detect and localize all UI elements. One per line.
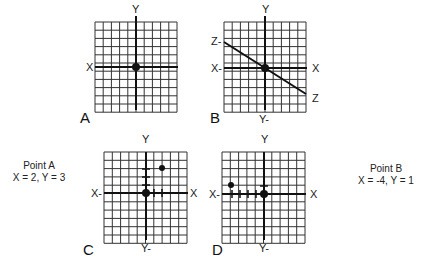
point-b-title: Point B xyxy=(352,163,420,175)
y-neg-axis-label-d: Y- xyxy=(259,243,269,254)
point-a-title: Point A xyxy=(8,160,70,172)
y-axis-label-d: Y xyxy=(261,134,268,145)
x-axis-label-d: X xyxy=(310,189,317,200)
origin-dot-d xyxy=(260,190,268,198)
grid-d xyxy=(0,0,424,265)
point-b-coords: X = -4, Y = 1 xyxy=(352,175,420,187)
x-neg-axis-label-d: X- xyxy=(209,189,220,200)
panel-letter-d: D xyxy=(212,242,223,257)
point-a-caption: Point A X = 2, Y = 3 xyxy=(8,160,70,184)
point-a-coords: X = 2, Y = 3 xyxy=(8,172,70,184)
point-b-dot xyxy=(228,182,234,188)
point-b-caption: Point B X = -4, Y = 1 xyxy=(352,163,420,187)
